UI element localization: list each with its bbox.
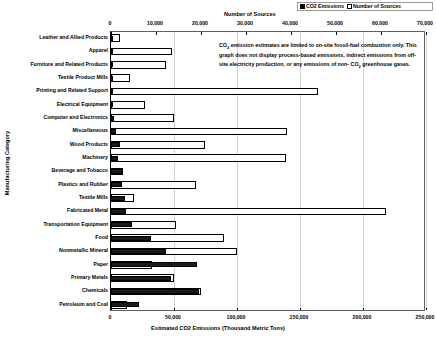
- y-axis-category-label: Electrical Equipment: [57, 102, 108, 107]
- bar-co2-emissions: [111, 76, 113, 81]
- y-axis-category-label: Beverage and Tobacco: [52, 168, 108, 173]
- x-axis-title: Estimated CO2 Emissions (Thousand Metric…: [0, 325, 436, 331]
- y-axis-category-label: Plastics and Rubber: [58, 182, 108, 187]
- plot-area: [110, 31, 425, 311]
- gridline: [363, 32, 364, 310]
- bar-co2-emissions: [111, 49, 113, 54]
- chart-legend: CO2 Emissions Number of Sources: [297, 2, 433, 11]
- bar-co2-emissions: [111, 196, 125, 201]
- bar-co2-emissions: [111, 236, 151, 241]
- bottom-tick-mark: [237, 308, 238, 311]
- gridline: [174, 32, 175, 310]
- y-axis-category-label: Paper: [94, 262, 108, 267]
- top-axis-tick-labels: 010,00020,00030,00040,00050,00060,00070,…: [0, 21, 436, 29]
- top-tick-label: 60,000: [372, 21, 388, 26]
- y-axis-category-label: Leather and Allied Products: [39, 35, 108, 40]
- bar-co2-emissions: [111, 116, 114, 121]
- bottom-axis-tick-labels: 050,000100,000150,000200,000250,000: [0, 315, 436, 323]
- top-tick-label: 20,000: [192, 21, 208, 26]
- bar-number-of-sources: [111, 74, 130, 82]
- chart-root: CO2 Emissions Number of Sources Number o…: [0, 0, 436, 340]
- legend-swatch-co2-emissions: [300, 4, 305, 9]
- top-tick-mark: [156, 32, 157, 35]
- y-axis-category-label: Fabricated Metal: [67, 208, 108, 213]
- bottom-tick-mark: [174, 308, 175, 311]
- bottom-tick-mark: [300, 308, 301, 311]
- bottom-tick-label: 0: [109, 315, 112, 320]
- y-axis-category-label: Textile Mills: [79, 195, 108, 200]
- gridline: [300, 32, 301, 310]
- bar-co2-emissions: [111, 262, 197, 267]
- top-tick-label: 70,000: [417, 21, 433, 26]
- y-axis-category-label: Primary Metals: [71, 275, 108, 280]
- legend-item-co2-emissions: CO2 Emissions: [300, 4, 344, 9]
- bar-number-of-sources: [111, 114, 174, 122]
- bar-co2-emissions: [111, 89, 113, 94]
- top-axis-title: Number of Sources: [224, 11, 276, 17]
- bottom-tick-label: 100,000: [227, 315, 246, 320]
- bar-co2-emissions: [111, 169, 122, 174]
- bar-co2-emissions: [111, 302, 139, 307]
- y-axis-category-label: Wood Products: [70, 142, 108, 147]
- top-tick-label: 10,000: [147, 21, 163, 26]
- y-axis-category-label: Apparel: [89, 48, 108, 53]
- top-tick-mark: [426, 32, 427, 35]
- bar-number-of-sources: [111, 154, 286, 162]
- y-axis-category-label: Chemicals: [82, 288, 108, 293]
- bar-number-of-sources: [111, 181, 196, 189]
- y-axis-category-label: Transportation Equipment: [43, 222, 108, 227]
- top-tick-label: 40,000: [282, 21, 298, 26]
- bar-number-of-sources: [111, 128, 287, 136]
- bar-number-of-sources: [111, 88, 318, 96]
- top-tick-label: 0: [109, 21, 112, 26]
- bar-co2-emissions: [111, 276, 171, 281]
- bar-co2-emissions: [111, 102, 113, 107]
- y-axis-category-label: Machinery: [82, 155, 108, 160]
- legend-label-co2-emissions: CO2 Emissions: [306, 4, 344, 9]
- bottom-tick-label: 150,000: [290, 315, 309, 320]
- legend-label-number-of-sources: Number of Sources: [353, 4, 401, 9]
- y-axis-category-label: Petroleum and Coal: [59, 302, 108, 307]
- top-tick-mark: [201, 32, 202, 35]
- bottom-tick-mark: [426, 308, 427, 311]
- top-tick-label: 30,000: [237, 21, 253, 26]
- top-tick-label: 50,000: [327, 21, 343, 26]
- y-axis-category-label: Food: [95, 235, 108, 240]
- bar-number-of-sources: [111, 61, 166, 69]
- bar-number-of-sources: [111, 101, 145, 109]
- bar-number-of-sources: [111, 48, 172, 56]
- chart-annotation-note: CO2 emission estimates are limited to on…: [219, 41, 424, 70]
- top-tick-mark: [291, 32, 292, 35]
- bar-co2-emissions: [111, 289, 199, 294]
- y-axis-category-label: Miscellaneous: [73, 128, 108, 133]
- top-tick-mark: [381, 32, 382, 35]
- bottom-tick-mark: [363, 308, 364, 311]
- bar-number-of-sources: [111, 208, 386, 216]
- y-axis-category-label: Furniture and Related Products: [30, 62, 108, 67]
- bottom-tick-label: 50,000: [165, 315, 181, 320]
- y-axis-category-labels: Leather and Allied ProductsApparelFurnit…: [0, 31, 108, 311]
- bar-co2-emissions: [111, 209, 126, 214]
- bar-co2-emissions: [111, 249, 166, 254]
- y-axis-category-label: Textile Product Mills: [58, 75, 108, 80]
- bar-co2-emissions: [111, 142, 120, 147]
- gridline: [237, 32, 238, 310]
- legend-item-number-of-sources: Number of Sources: [347, 4, 401, 9]
- top-tick-mark: [336, 32, 337, 35]
- y-axis-category-label: Computer and Electronics: [43, 115, 108, 120]
- bar-co2-emissions: [111, 62, 113, 67]
- bottom-tick-label: 250,000: [416, 315, 435, 320]
- y-axis-category-label: Printing and Related Support: [36, 88, 108, 93]
- bar-co2-emissions: [111, 36, 113, 41]
- bar-co2-emissions: [111, 156, 118, 161]
- legend-swatch-number-of-sources: [347, 4, 352, 9]
- top-tick-mark: [246, 32, 247, 35]
- y-axis-category-label: Nonmetallic Mineral: [59, 248, 108, 253]
- bottom-tick-label: 200,000: [353, 315, 372, 320]
- bar-co2-emissions: [111, 129, 116, 134]
- bar-number-of-sources: [111, 141, 205, 149]
- gridline: [426, 32, 427, 310]
- bar-co2-emissions: [111, 182, 122, 187]
- bar-co2-emissions: [111, 222, 132, 227]
